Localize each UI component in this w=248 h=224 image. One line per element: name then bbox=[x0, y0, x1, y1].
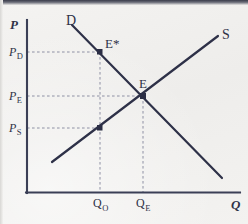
quantity-tick-qe-sub: E bbox=[145, 203, 150, 213]
price-tick-ps: PS bbox=[9, 122, 21, 134]
quantity-axis-title: Q bbox=[231, 198, 240, 211]
quantity-tick-qe: QE bbox=[136, 197, 150, 209]
price-tick-pd-sub: D bbox=[17, 51, 23, 61]
price-tick-pe-sub: E bbox=[17, 95, 22, 105]
price-tick-ps-base: P bbox=[9, 121, 16, 135]
price-axis-title: P bbox=[10, 18, 18, 31]
quantity-tick-qe-base: Q bbox=[136, 196, 145, 210]
quantity-tick-qo-sub: O bbox=[102, 203, 108, 213]
marker-ps-point bbox=[97, 125, 103, 131]
supply-curve-label: S bbox=[222, 28, 230, 42]
quantity-tick-qo: QO bbox=[93, 197, 108, 209]
point-label-e: E bbox=[139, 77, 147, 90]
supply-curve bbox=[52, 36, 218, 162]
marker-e bbox=[140, 93, 146, 99]
price-tick-pe-base: P bbox=[9, 89, 16, 103]
point-label-e-star: E* bbox=[105, 37, 119, 50]
price-tick-pe: PE bbox=[9, 90, 22, 102]
supply-demand-figure: P Q D S E* E PD PE PS QO QE bbox=[0, 0, 248, 224]
price-tick-ps-sub: S bbox=[17, 127, 22, 137]
demand-curve bbox=[72, 25, 222, 178]
quantity-tick-qo-base: Q bbox=[93, 196, 102, 210]
plot-canvas bbox=[0, 0, 248, 224]
price-tick-pd-base: P bbox=[9, 45, 16, 59]
price-tick-pd: PD bbox=[9, 46, 22, 58]
demand-curve-label: D bbox=[66, 14, 76, 28]
marker-e-star bbox=[97, 49, 103, 55]
